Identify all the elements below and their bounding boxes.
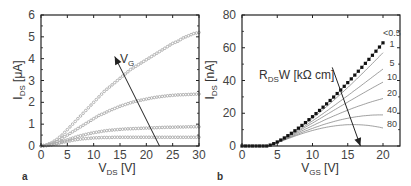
- x-tick-label: 10: [306, 148, 320, 162]
- measured-point: [329, 99, 332, 102]
- data-point: [103, 130, 106, 133]
- data-point: [127, 70, 130, 73]
- data-point: [87, 121, 90, 124]
- x-tick-label: 20: [140, 148, 154, 162]
- x-tick-label: 20: [376, 148, 390, 162]
- model-line: [267, 53, 383, 146]
- y-tick-label: 4: [28, 52, 35, 66]
- data-point: [79, 115, 82, 118]
- data-point: [87, 106, 90, 109]
- x-tick-label: 10: [87, 148, 101, 162]
- data-point: [145, 98, 148, 101]
- measured-point: [304, 121, 307, 124]
- data-point: [142, 60, 145, 63]
- measured-point: [371, 54, 374, 57]
- panel-b-xlabel: VGS [V]: [301, 161, 339, 177]
- y-tick-label: 6: [28, 8, 35, 22]
- data-point: [84, 109, 87, 112]
- panel-a-series: [40, 31, 201, 147]
- y-tick-label: 0: [28, 139, 35, 153]
- measured-point: [272, 142, 275, 145]
- panel-a-xlabel: VDS [V]: [98, 161, 135, 177]
- x-tick-label: 0: [38, 148, 45, 162]
- line-label: <0.5: [383, 28, 401, 38]
- line-label: 40: [387, 105, 397, 115]
- data-point: [103, 112, 106, 115]
- data-point: [95, 116, 98, 119]
- y-tick-label: 3: [28, 74, 35, 88]
- panel-a-label: a: [22, 171, 28, 182]
- data-point: [69, 140, 72, 143]
- data-point: [163, 95, 166, 98]
- data-point: [163, 47, 166, 50]
- data-point: [113, 81, 116, 84]
- measured-point: [346, 81, 349, 84]
- x-tick-label: 5: [64, 148, 71, 162]
- x-tick-label: 5: [274, 148, 281, 162]
- data-point: [90, 104, 93, 107]
- panel-a-ylabel: IDS [μA]: [11, 60, 27, 99]
- data-point: [71, 131, 74, 134]
- measured-point: [279, 138, 282, 141]
- line-label: 10: [387, 72, 397, 82]
- data-point: [92, 131, 95, 134]
- data-point: [66, 128, 69, 131]
- measured-point: [293, 129, 296, 132]
- data-point: [79, 126, 82, 129]
- y-tick-label: 60: [223, 41, 237, 55]
- measured-point: [286, 134, 289, 137]
- data-point: [74, 129, 77, 132]
- arrow-head-icon: [354, 137, 361, 146]
- data-point: [135, 65, 138, 68]
- x-tick-label: 25: [166, 148, 180, 162]
- data-point: [158, 50, 161, 53]
- data-point: [106, 111, 109, 114]
- data-point: [82, 124, 85, 127]
- measured-point: [336, 92, 339, 95]
- data-point: [77, 127, 80, 130]
- panel-b-model-lines: [267, 43, 383, 146]
- data-point: [192, 32, 195, 35]
- measured-point: [357, 70, 360, 73]
- data-point: [106, 129, 109, 132]
- data-point: [82, 112, 85, 115]
- data-point: [119, 77, 122, 80]
- panel-b-label: b: [217, 171, 223, 182]
- data-point: [77, 117, 80, 120]
- measured-point: [332, 95, 335, 98]
- measured-point: [374, 50, 377, 53]
- y-tick-label: 40: [223, 74, 237, 88]
- data-point: [98, 96, 101, 99]
- data-point: [177, 40, 180, 43]
- measured-point: [314, 112, 317, 115]
- vg-annotation: VG: [120, 52, 134, 68]
- data-point: [69, 126, 72, 129]
- data-point: [92, 101, 95, 104]
- data-point: [71, 139, 74, 142]
- measured-point: [350, 77, 353, 80]
- panel-b-ticks: 05101520020406080: [223, 8, 400, 162]
- data-point: [148, 57, 151, 60]
- measured-point: [378, 45, 381, 48]
- data-point: [142, 98, 145, 101]
- data-point: [116, 79, 119, 82]
- panel-b-measured-points: [240, 41, 384, 147]
- x-tick-label: 15: [341, 148, 355, 162]
- data-point: [148, 97, 151, 100]
- data-point: [84, 122, 87, 125]
- data-point: [111, 84, 114, 87]
- data-point: [195, 32, 198, 35]
- data-point: [140, 99, 143, 102]
- model-line: [267, 125, 383, 146]
- measured-point: [318, 109, 321, 112]
- data-point: [150, 97, 153, 100]
- data-point: [179, 38, 182, 41]
- panel-b-line-labels: <0.51510204080: [383, 28, 401, 129]
- measured-point: [283, 136, 286, 139]
- data-point: [98, 131, 101, 134]
- data-point: [121, 75, 124, 78]
- data-point: [161, 49, 164, 52]
- data-point: [100, 130, 103, 133]
- data-point: [140, 62, 143, 65]
- y-tick-label: 5: [28, 30, 35, 44]
